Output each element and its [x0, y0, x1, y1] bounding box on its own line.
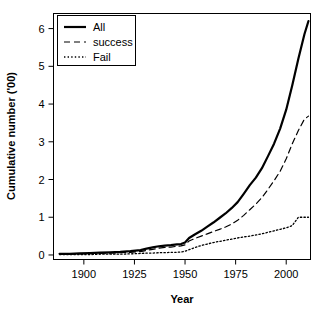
y-axis-title: Cumulative number ('00): [5, 72, 17, 200]
x-tick-label: 1900: [72, 268, 96, 280]
series-line-fail: [60, 217, 309, 254]
y-tick-label: 3: [38, 136, 44, 148]
y-tick-label: 4: [38, 98, 44, 110]
series-line-success: [60, 116, 309, 254]
x-tick-label: 2000: [274, 268, 298, 280]
legend-label-fail: Fail: [93, 51, 111, 63]
y-axis-ticks: 0123456: [38, 23, 53, 261]
y-tick-label: 6: [38, 23, 44, 35]
legend-label-success: success: [93, 36, 133, 48]
cumulative-number-line-chart: 0123456 19001925195019752000 Year Cumula…: [0, 0, 325, 319]
y-tick-label: 0: [38, 249, 44, 261]
chart-legend: AllsuccessFail: [58, 16, 136, 66]
x-axis-title: Year: [170, 293, 194, 305]
x-tick-label: 1950: [173, 268, 197, 280]
x-tick-label: 1925: [122, 268, 146, 280]
y-tick-label: 1: [38, 211, 44, 223]
x-tick-label: 1975: [223, 268, 247, 280]
legend-label-all: All: [93, 21, 105, 33]
y-tick-label: 2: [38, 174, 44, 186]
y-tick-label: 5: [38, 60, 44, 72]
x-axis-ticks: 19001925195019752000: [72, 260, 299, 280]
chart-container: 0123456 19001925195019752000 Year Cumula…: [0, 0, 325, 319]
